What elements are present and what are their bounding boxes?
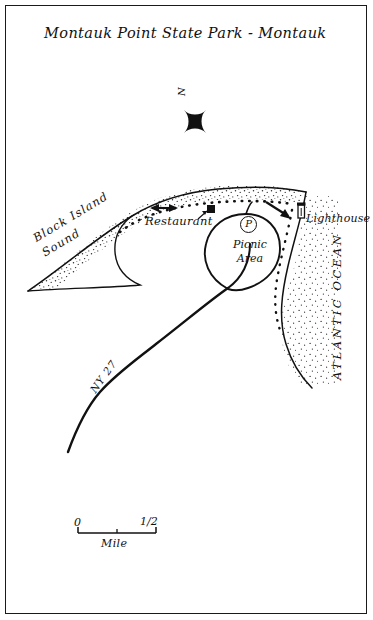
restaurant-marker [207,205,215,213]
label-atlantic-ocean: ATLANTIC OCEAN [330,233,344,380]
scale-bar-unit-label: Mile [101,537,127,550]
north-arrow-label: N [176,87,187,96]
map-figure: Montauk Point State Park - Montauk N Blo… [0,0,373,620]
label-picnic-area: Picnic Area [224,238,276,266]
parking-symbol: P [240,216,257,233]
loop-connector-road [246,202,252,214]
page-title: Montauk Point State Park - Montauk [44,22,334,44]
north-arrow-star [184,110,206,133]
scale-bar-start-label: 0 [74,516,81,529]
ny-27-road [68,288,228,452]
label-lighthouse: Lighthouse [306,212,370,225]
lighthouse-icon [297,203,306,219]
scale-bar-end-label: 1/2 [140,515,158,528]
label-restaurant: Restaurant [145,214,213,228]
